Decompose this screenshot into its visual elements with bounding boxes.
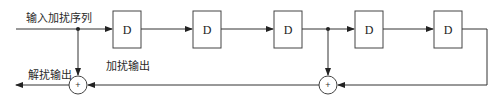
delay-block-2: D — [193, 11, 221, 48]
delay-label: D — [203, 23, 212, 37]
delay-block-3: D — [274, 11, 302, 48]
plus-icon: + — [75, 80, 80, 90]
delay-label: D — [365, 23, 374, 37]
scrambler-diagram: 输入加扰序列 D D D D D + + — [0, 0, 499, 98]
delay-block-1: D — [113, 11, 141, 48]
scrambled-output-label: 加扰输出 — [106, 59, 150, 73]
plus-icon: + — [325, 80, 330, 90]
delay-label: D — [123, 23, 132, 37]
delay-block-5: D — [434, 11, 462, 48]
delay-label: D — [444, 23, 453, 37]
delay-label: D — [284, 23, 293, 37]
adder-2: + — [319, 76, 337, 94]
delay-block-4: D — [355, 11, 383, 48]
input-label: 输入加扰序列 — [26, 11, 92, 25]
descrambled-output-label: 解扰输出 — [28, 68, 72, 82]
